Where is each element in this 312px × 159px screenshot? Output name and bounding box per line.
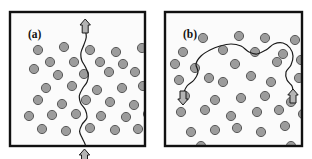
particle — [232, 123, 241, 132]
particle — [210, 95, 219, 104]
particle — [33, 45, 42, 54]
particle — [210, 125, 219, 134]
particle — [129, 100, 138, 109]
particle — [53, 70, 62, 79]
panel-a: (a) — [0, 0, 156, 159]
particle — [71, 109, 80, 118]
particle — [85, 45, 94, 54]
particle — [204, 73, 213, 82]
particle — [121, 112, 130, 121]
figure-root: (a) (b) — [0, 0, 312, 159]
particle — [24, 111, 33, 120]
particle — [47, 110, 56, 119]
particle — [260, 91, 269, 100]
particle — [85, 123, 94, 132]
particle — [252, 107, 261, 116]
particle — [81, 95, 90, 104]
particle — [274, 105, 283, 114]
particle — [290, 35, 299, 44]
particle — [118, 59, 127, 68]
particle — [69, 57, 78, 66]
particle — [278, 49, 287, 58]
particle — [104, 67, 113, 76]
particle — [92, 85, 101, 94]
particle — [95, 57, 104, 66]
particle — [67, 81, 76, 90]
particle — [45, 57, 54, 66]
particle — [234, 31, 243, 40]
particle — [178, 47, 187, 56]
particle — [59, 42, 68, 51]
particle — [230, 59, 239, 68]
particle — [105, 97, 114, 106]
particle — [133, 124, 142, 133]
particle — [170, 59, 179, 68]
particle — [61, 126, 70, 135]
particle — [186, 127, 195, 136]
particle — [174, 75, 183, 84]
particle — [218, 77, 227, 86]
particle — [117, 83, 126, 92]
particle — [111, 47, 120, 56]
particle — [57, 99, 66, 108]
particle — [256, 127, 265, 136]
particle — [246, 71, 255, 80]
particle — [41, 83, 50, 92]
panel-b-label: (b) — [183, 28, 197, 41]
particle — [280, 121, 289, 130]
panel-b-canvas: (b) — [156, 0, 312, 159]
particle — [266, 77, 275, 86]
panel-b: (b) — [156, 0, 312, 159]
particle — [110, 125, 119, 134]
particle — [130, 67, 139, 76]
particle — [176, 107, 185, 116]
particle — [260, 33, 269, 42]
panel-a-canvas: (a) — [0, 0, 156, 159]
particle — [29, 64, 38, 73]
particle — [226, 111, 235, 120]
particle — [272, 57, 281, 66]
particle — [96, 111, 105, 120]
particle — [250, 47, 259, 56]
particle — [33, 95, 42, 104]
particle — [37, 124, 46, 133]
particle — [218, 45, 227, 54]
panel-a-bottom-arrow — [79, 149, 89, 159]
particle — [200, 105, 209, 114]
panel-a-label: (a) — [28, 28, 42, 41]
particle — [198, 33, 207, 42]
particle — [236, 93, 245, 102]
particle — [138, 81, 147, 90]
